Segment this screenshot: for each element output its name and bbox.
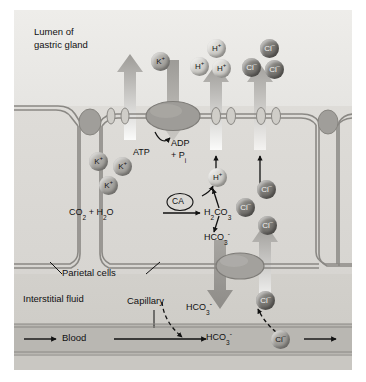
atp-hydrolysis-arrow (155, 132, 170, 141)
ion-h-cytosol: H+ (208, 168, 227, 187)
hk-atpase-pump (146, 102, 200, 131)
ion-cl-cytosol-1: Cl– (257, 180, 276, 199)
label-hco3-interstitial: HCO3- (186, 302, 212, 314)
apical-membrane-left (14, 106, 80, 122)
lateral-membrane-middle (100, 122, 319, 268)
ion-cl-lumen-1: Cl– (260, 39, 279, 58)
label-interstitial-fluid: Interstitial fluid (23, 293, 84, 304)
ion-h-lumen-2: H+ (190, 57, 209, 76)
ion-k-cytosol-2: K+ (113, 157, 132, 176)
label-pi: + Pi (171, 150, 186, 162)
label-atp: ATP (133, 147, 150, 157)
ion-cl-cytosol-2: Cl– (236, 198, 255, 217)
anion-exchanger (216, 253, 264, 279)
label-hco3-cytosol: HCO3- (204, 232, 230, 244)
label-hco3-blood: HCO3- (206, 332, 232, 344)
ion-h-lumen-3: H+ (212, 59, 231, 78)
arrow-h2co3-to-h (213, 189, 219, 208)
ion-k-cytosol-1: K+ (89, 152, 108, 171)
label-lumen-line1: Lumen of (34, 26, 74, 37)
label-h2co3: H2CO3 (204, 207, 231, 219)
ion-h-lumen-1: H+ (207, 39, 226, 58)
cell-membranes (14, 10, 352, 370)
label-blood: Blood (62, 332, 86, 343)
ion-cl-lumen-3: Cl– (265, 60, 284, 79)
parietal-cell-diagram: K+ K+ K+ K+ H+ H+ H+ H+ Cl– Cl– Cl– Cl– … (0, 0, 366, 382)
lateral-membrane-left-outer (14, 122, 80, 268)
label-parietal-cells: Parietal cells (62, 267, 116, 278)
label-ca-enzyme: CA (172, 196, 184, 206)
ion-cl-lumen-2: Cl– (242, 58, 261, 77)
label-lumen-line2: gastric gland (34, 39, 88, 50)
ion-cl-interstitial: Cl– (256, 291, 275, 310)
tight-junction-left (79, 109, 101, 135)
ion-k-cytosol-3: K+ (99, 176, 118, 195)
label-capillary: Capillary (127, 295, 164, 306)
label-co2-h2o: CO2 + H2O (69, 207, 114, 219)
ion-cl-cytosol-3: Cl– (258, 216, 277, 235)
ion-k-lumen: K+ (151, 52, 170, 71)
label-adp: ADP (171, 138, 190, 148)
diagram-plate: K+ K+ K+ K+ H+ H+ H+ H+ Cl– Cl– Cl– Cl– … (14, 10, 352, 370)
ion-cl-blood: Cl– (271, 330, 290, 349)
tight-junction-right (318, 110, 338, 134)
